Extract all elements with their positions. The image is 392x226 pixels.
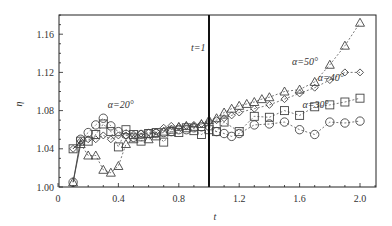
x-tick-label: 2.0 bbox=[354, 193, 367, 204]
x-tick-label: 1.2 bbox=[233, 193, 246, 204]
annotation-label: α=30° bbox=[303, 99, 329, 110]
annotation-label: α=40° bbox=[318, 72, 344, 83]
series-circle bbox=[69, 114, 364, 186]
line-chart: 00.40.81.21.62.01.001.041.081.121.16 t η… bbox=[0, 0, 392, 226]
x-tick-label: 0.8 bbox=[173, 193, 186, 204]
x-axis-label: t bbox=[214, 211, 217, 222]
y-tick-label: 1.16 bbox=[37, 29, 55, 40]
y-tick-label: 1.04 bbox=[37, 143, 55, 154]
y-tick-label: 1.00 bbox=[37, 182, 55, 193]
annotations: α=20°α=30°α=40°α=50°t=1 bbox=[108, 42, 344, 109]
y-axis-label: η bbox=[13, 101, 24, 106]
annotation-label: α=50° bbox=[292, 56, 318, 67]
x-tick-label: 1.6 bbox=[293, 193, 306, 204]
x-tick-label: 0 bbox=[56, 193, 61, 204]
x-tick-label: 0.4 bbox=[112, 193, 125, 204]
y-tick-label: 1.12 bbox=[37, 67, 55, 78]
annotation-label: t=1 bbox=[191, 42, 206, 53]
annotation-label: α=20° bbox=[108, 99, 134, 110]
y-tick-label: 1.08 bbox=[37, 105, 55, 116]
